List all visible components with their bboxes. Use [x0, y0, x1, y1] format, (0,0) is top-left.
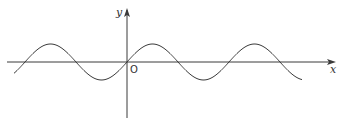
sine-plot: y x O [0, 0, 341, 126]
origin-label: O [130, 64, 138, 75]
y-axis-label: y [115, 6, 123, 19]
x-axis-label: x [330, 63, 337, 76]
